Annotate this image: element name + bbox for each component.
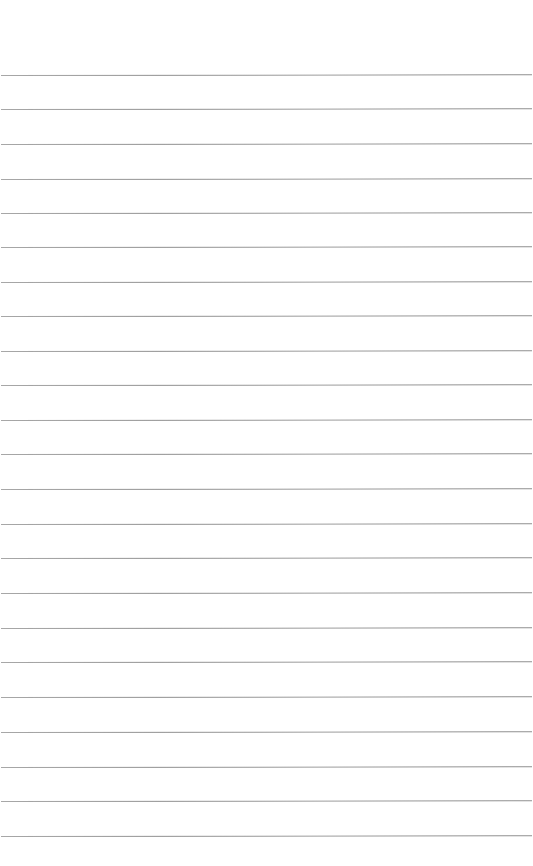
ruled-line <box>1 800 532 802</box>
ruled-line <box>1 453 532 455</box>
ruled-line <box>1 592 532 594</box>
ruled-line <box>1 696 532 698</box>
ruled-line <box>1 419 532 421</box>
ruled-line <box>1 108 532 110</box>
ruled-line <box>1 281 532 283</box>
ruled-line <box>1 384 532 386</box>
ruled-line <box>1 835 532 837</box>
ruled-line <box>1 246 532 248</box>
ruled-line <box>1 178 532 180</box>
ruled-line <box>1 627 532 629</box>
ruled-line <box>1 557 532 559</box>
ruled-line <box>1 766 532 768</box>
ruled-line <box>1 661 532 663</box>
lined-paper-page <box>0 0 533 866</box>
ruled-line <box>1 731 532 733</box>
ruled-line <box>1 143 532 145</box>
ruled-line <box>1 315 532 317</box>
ruled-line <box>1 212 532 214</box>
ruled-line <box>1 488 532 490</box>
ruled-line <box>1 74 532 76</box>
ruled-line <box>1 523 532 525</box>
ruled-line <box>1 350 532 352</box>
